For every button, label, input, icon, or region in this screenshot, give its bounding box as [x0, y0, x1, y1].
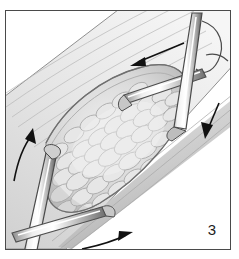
figure-root: 3: [0, 0, 239, 259]
figure-frame: 3: [5, 10, 231, 250]
figure-number-label: 3: [208, 222, 216, 237]
surgical-illustration-canvas: [6, 11, 230, 249]
